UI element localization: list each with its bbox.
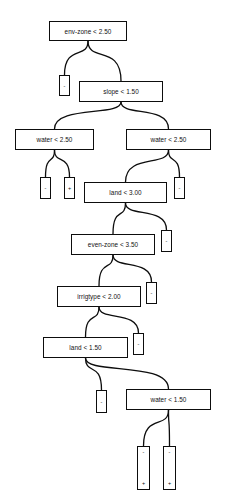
tree-edge-right [169,410,170,446]
leaf-node: - [40,177,51,199]
leaf-symbol-positive: + [168,481,171,487]
leaf-node: - [161,230,172,252]
split-condition-label: slope < 1.50 [103,88,139,95]
leaf-symbol: - [45,185,47,191]
tree-edge-right [99,307,139,333]
leaf-node: - [174,177,185,199]
tree-edge-left [99,255,113,286]
tree-edge-left [86,307,100,337]
leaf-node: - [133,333,144,355]
split-node: land < 3.00 [84,182,167,203]
leaf-symbol: - [64,83,66,89]
tree-edge-right [55,150,70,177]
split-condition-label: irrigtype < 2.00 [77,293,120,300]
leaf-node: - [146,282,157,304]
leaf-symbol: - [101,399,103,405]
split-condition-label: water < 2.50 [151,136,187,143]
tree-edge-left [65,41,89,75]
split-condition-label: water < 1.50 [151,396,187,403]
split-node: land < 1.50 [43,337,128,358]
leaf-node: - [96,390,107,413]
split-condition-label: even-zone < 3.50 [88,241,138,248]
tree-edge-left [55,102,122,129]
leaf-node: -+ [137,446,150,490]
tree-edge-right [169,150,180,177]
leaf-symbol: + [68,185,71,191]
tree-edge-left [144,410,169,446]
split-condition-label: land < 3.00 [109,189,141,196]
leaf-symbol: - [151,290,153,296]
split-node: irrigtype < 2.00 [57,286,141,307]
split-node: water < 1.50 [126,389,211,410]
split-condition-label: land < 1.50 [69,344,101,351]
split-node: env-zone < 2.50 [49,21,127,41]
leaf-symbol: - [166,238,168,244]
tree-edge-left [113,203,126,234]
leaf-node: -+ [163,446,176,490]
tree-edge-right [113,255,152,282]
split-condition-label: env-zone < 2.50 [65,28,112,35]
split-node: even-zone < 3.50 [71,234,155,255]
tree-edge-left [46,150,55,177]
split-condition-label: water < 2.50 [37,136,73,143]
leaf-symbol: - [138,341,140,347]
leaf-symbol-negative: - [143,450,145,456]
leaf-symbol-positive: + [142,481,145,487]
decision-tree-diagram: env-zone < 2.50-slope < 1.50water < 2.50… [0,0,226,500]
leaf-node: - [59,75,70,96]
split-node: slope < 1.50 [79,81,163,102]
tree-edge-right [121,102,169,129]
leaf-symbol: - [179,185,181,191]
tree-edge-right [126,203,167,230]
split-node: water < 2.50 [126,129,211,150]
tree-edge-right [88,41,121,81]
leaf-node: + [64,177,75,199]
split-node: water < 2.50 [15,129,94,150]
leaf-symbol-negative: - [169,450,171,456]
tree-edge-left [126,150,169,182]
